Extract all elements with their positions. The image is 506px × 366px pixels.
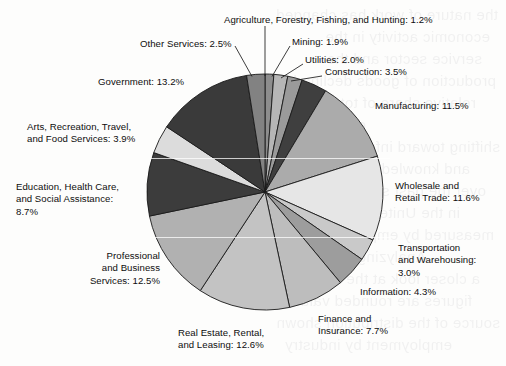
pie-label-transportation-line-1: and Warehousing:: [398, 254, 476, 266]
pie-label-wholesale-line-0: Wholesale and: [395, 180, 480, 192]
pie-label-wholesale: Wholesale and Retail Trade: 11.6%: [395, 180, 480, 205]
pie-label-arts: Arts, Recreation, Travel, and Food Servi…: [27, 121, 135, 146]
pie-label-realestate-line-1: and Leasing: 12.6%: [178, 339, 264, 351]
pie-label-construction-line-0: Construction: 3.5%: [325, 66, 407, 78]
pie-label-wholesale-line-1: Retail Trade: 11.6%: [395, 192, 480, 204]
pie-label-mining-line-0: Mining: 1.9%: [292, 36, 348, 48]
pie-label-arts-line-0: Arts, Recreation, Travel,: [27, 121, 135, 133]
pie-label-mining: Mining: 1.9%: [292, 36, 348, 48]
pie-label-professional-line-0: Professional: [8, 250, 160, 262]
pie-label-government: Government: 13.2%: [98, 76, 184, 88]
leader-line-utilities: [281, 64, 303, 78]
pie-label-utilities: Utilities: 2.0%: [305, 54, 364, 66]
pie-label-government-line-0: Government: 13.2%: [98, 76, 184, 88]
pie-label-professional-line-1: and Business: [8, 262, 160, 274]
pie-label-otherservices: Other Services: 2.5%: [140, 38, 232, 50]
pie-label-transportation-line-2: 3.0%: [398, 267, 476, 279]
pie-label-professional: Professional and Business Services: 12.5…: [8, 250, 160, 287]
pie-label-utilities-line-0: Utilities: 2.0%: [305, 54, 364, 66]
pie-label-education-line-2: 8.7%: [16, 206, 119, 218]
pie-label-arts-line-1: and Food Services: 3.9%: [27, 133, 135, 145]
pie-label-manufacturing-line-0: Manufacturing: 11.5%: [375, 100, 469, 112]
pie-label-construction: Construction: 3.5%: [325, 66, 407, 78]
pie-label-otherservices-line-0: Other Services: 2.5%: [140, 38, 232, 50]
pie-label-education: Education, Health Care, and Social Assis…: [16, 181, 119, 218]
leader-line-otherservices: [235, 46, 252, 77]
pie-label-transportation: Transportation and Warehousing: 3.0%: [398, 242, 476, 279]
pie-label-finance: Finance and Insurance: 7.7%: [318, 313, 388, 338]
pie-chart: Agriculture, Forestry, Fishing, and Hunt…: [0, 0, 506, 366]
chart-page: the nature of work has changed economic …: [0, 0, 506, 366]
pie-label-agriculture-line-0: Agriculture, Forestry, Fishing, and Hunt…: [224, 14, 433, 26]
pie-label-education-line-0: Education, Health Care,: [16, 181, 119, 193]
pie-label-realestate: Real Estate, Rental, and Leasing: 12.6%: [178, 327, 264, 352]
pie-label-information-line-0: Information: 4.3%: [360, 286, 436, 298]
pie-label-realestate-line-0: Real Estate, Rental,: [178, 327, 264, 339]
pie-label-professional-line-2: Services: 12.5%: [8, 275, 160, 287]
pie-label-transportation-line-0: Transportation: [398, 242, 476, 254]
pie-label-finance-line-0: Finance and: [318, 313, 388, 325]
pie-label-information: Information: 4.3%: [360, 286, 436, 298]
leader-line-mining: [272, 46, 290, 77]
pie-label-education-line-1: and Social Assistance:: [16, 193, 119, 205]
pie-label-finance-line-1: Insurance: 7.7%: [318, 325, 388, 337]
pie-slices: [147, 74, 383, 310]
pie-label-agriculture: Agriculture, Forestry, Fishing, and Hunt…: [224, 14, 433, 26]
pie-label-manufacturing: Manufacturing: 11.5%: [375, 100, 469, 112]
